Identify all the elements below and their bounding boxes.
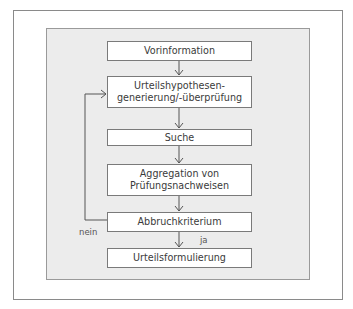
node-label: Vorinformation <box>144 45 215 57</box>
node-aggregation: Aggregation von Prüfungsnachweisen <box>107 164 252 196</box>
node-label-line2: generierung/-überprüfung <box>117 92 242 104</box>
node-urteilshypothesen: Urteilshypothesen- generierung/-überprüf… <box>107 76 252 108</box>
node-label: Abbruchkriterium <box>138 216 222 228</box>
edge-label-nein: nein <box>79 227 97 237</box>
node-abbruchkriterium: Abbruchkriterium <box>107 212 252 232</box>
node-label: Urteilsformulierung <box>133 252 226 264</box>
edge-label-ja: ja <box>200 235 208 245</box>
node-label-line2: Prüfungsnachweisen <box>130 180 229 192</box>
node-suche: Suche <box>107 129 252 146</box>
node-label: Suche <box>165 132 194 144</box>
node-urteilsformulierung: Urteilsformulierung <box>107 248 252 268</box>
node-vorinformation: Vorinformation <box>107 41 252 61</box>
node-label-line1: Urteilshypothesen- <box>134 80 225 92</box>
loop-nein-line <box>85 94 107 220</box>
node-label-line1: Aggregation von <box>140 168 219 180</box>
